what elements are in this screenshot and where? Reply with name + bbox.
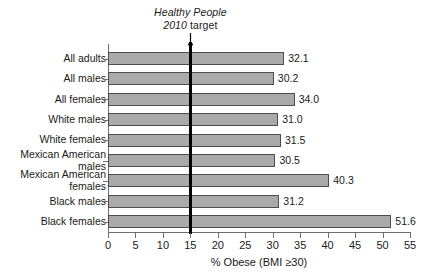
bar (108, 113, 278, 126)
x-axis-tick-label: 30 (261, 239, 285, 252)
x-axis-tick (383, 233, 384, 238)
bar (108, 215, 391, 228)
y-axis-tick (103, 201, 108, 202)
x-axis-tick-label: 40 (316, 239, 340, 252)
x-axis-tick (163, 233, 164, 238)
category-label-line: Black females (14, 216, 106, 228)
bar-value-label: 30.5 (279, 154, 299, 167)
bar-value-label: 51.6 (395, 215, 415, 228)
bar-value-label: 30.2 (278, 72, 298, 85)
healthy-people-target-line (189, 42, 192, 234)
bar-value-label: 32.1 (288, 52, 308, 65)
x-axis-tick-label: 50 (371, 239, 395, 252)
x-axis-tick-label: 5 (123, 239, 147, 252)
bar (108, 52, 284, 65)
x-axis-title: % Obese (BMI ≥30) (108, 255, 410, 269)
y-axis-tick (103, 222, 108, 223)
bar (108, 93, 295, 106)
x-axis-tick-label: 45 (343, 239, 367, 252)
category-label: White males (14, 114, 106, 126)
category-label-line: White males (14, 114, 106, 126)
y-axis-tick (103, 120, 108, 121)
annotation-line-2: 2010 target (109, 19, 271, 32)
x-axis-tick (108, 233, 109, 238)
bar (108, 134, 281, 147)
x-axis-tick (300, 233, 301, 238)
category-label-line: All males (14, 73, 106, 85)
category-label: All females (14, 94, 106, 106)
x-axis-tick (328, 233, 329, 238)
x-axis-tick (218, 233, 219, 238)
annotation-line-1: Healthy People (109, 6, 271, 19)
bar-value-label: 34.0 (299, 93, 319, 106)
x-axis-tick (190, 233, 191, 238)
bar-value-label: 40.3 (333, 174, 353, 187)
category-label-line: All females (14, 94, 106, 106)
bar (108, 174, 329, 187)
category-label: Black females (14, 216, 106, 228)
x-axis-tick-label: 15 (178, 239, 202, 252)
x-axis-tick-label: 55 (398, 239, 422, 252)
category-axis-labels: All adultsAll malesAll femalesWhite male… (14, 44, 106, 232)
category-label: White females (14, 134, 106, 146)
category-label-line: Mexican American (14, 149, 106, 161)
x-axis-tick-label: 20 (206, 239, 230, 252)
category-label: All adults (14, 53, 106, 65)
x-axis-tick-label: 25 (233, 239, 257, 252)
bar (108, 195, 279, 208)
y-axis-tick (103, 181, 108, 182)
y-axis-tick (103, 99, 108, 100)
x-axis-tick (355, 233, 356, 238)
obesity-bar-chart: Healthy People 2010 target All adultsAll… (0, 0, 423, 275)
x-axis-tick (135, 233, 136, 238)
plot-area (108, 44, 410, 232)
x-axis-line (108, 232, 411, 233)
category-label-line: White females (14, 134, 106, 146)
category-label-line: females (14, 181, 106, 193)
x-axis-tick (273, 233, 274, 238)
bar-value-label: 31.0 (282, 113, 302, 126)
y-axis-tick (103, 140, 108, 141)
y-axis-tick (103, 161, 108, 162)
x-axis-tick (245, 233, 246, 238)
bar-value-label: 31.5 (285, 134, 305, 147)
category-label: Mexican Americanfemales (14, 169, 106, 192)
annotation-year: 2010 (163, 19, 187, 31)
x-axis-tick-label: 0 (96, 239, 120, 252)
annotation-target-word: target (187, 19, 217, 31)
x-axis-tick (410, 233, 411, 238)
x-axis-tick-label: 10 (151, 239, 175, 252)
category-label: All males (14, 73, 106, 85)
category-label-line: All adults (14, 53, 106, 65)
y-axis-tick (103, 79, 108, 80)
x-axis-tick-label: 35 (288, 239, 312, 252)
category-label-line: Black males (14, 196, 106, 208)
healthy-people-annotation: Healthy People 2010 target (109, 6, 271, 32)
bar-value-label: 31.2 (283, 195, 303, 208)
y-axis-tick (103, 59, 108, 60)
category-label: Black males (14, 196, 106, 208)
